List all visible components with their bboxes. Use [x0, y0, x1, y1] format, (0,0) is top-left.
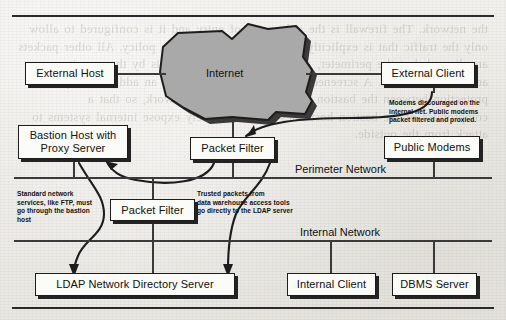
perimeter-network-line [14, 177, 492, 179]
arrowhead-packet-filter-top [246, 125, 256, 137]
note-trusted: Trusted packets from data warehouse acce… [197, 190, 309, 216]
drop-externalclient-to-publicmodems [433, 85, 435, 93]
box-public-modems[interactable]: Public Modems [384, 136, 480, 159]
arrowhead-bastion-host [105, 161, 118, 170]
drop-packetfilter-mid-lower [152, 220, 154, 240]
drop-publicmodems-to-perimeter [433, 159, 435, 178]
link-external-host-to-internet [114, 73, 166, 75]
box-dbms-server[interactable]: DBMS Server [392, 273, 477, 296]
diagram-vector-layer [0, 0, 506, 320]
internal-network-line [14, 240, 492, 242]
box-packet-filter-top-label: Packet Filter [201, 142, 263, 155]
box-public-modems-label: Public Modems [394, 141, 471, 154]
internet-cloud-label: Internet [206, 67, 243, 79]
internal-network-label: Internal Network [300, 226, 380, 238]
box-external-host-label: External Host [36, 67, 103, 80]
drop-bastion-to-perimeter [73, 159, 75, 178]
network-diagram: Internet Perimeter Network Internal Netw… [0, 0, 506, 320]
box-external-host[interactable]: External Host [25, 62, 115, 85]
box-packet-filter-mid-label: Packet Filter [121, 204, 183, 217]
note-bastion: Standard network services, like FTP, mus… [17, 190, 105, 224]
box-bastion-host[interactable]: Bastion Host with Proxy Server [18, 125, 128, 159]
box-packet-filter-top[interactable]: Packet Filter [190, 137, 275, 160]
note-modems: Modems discouraged on the internal net. … [389, 99, 494, 125]
trusted-packets-to-ldap-curve [228, 163, 270, 270]
box-internal-client[interactable]: Internal Client [287, 273, 376, 296]
drop-ldap-to-internal [152, 240, 154, 273]
drop-packetfilter-top-to-perimeter [232, 160, 234, 178]
perimeter-network-label: Perimeter Network [295, 163, 386, 175]
drop-packetfilter-mid-upper [152, 177, 154, 200]
box-bastion-host-label: Bastion Host with Proxy Server [30, 129, 117, 156]
drop-internet-to-packetfilter [232, 118, 234, 138]
box-packet-filter-mid[interactable]: Packet Filter [110, 199, 195, 221]
drop-dbms-to-internal [433, 240, 435, 273]
box-ldap-server-label: LDAP Network Directory Server [56, 278, 213, 291]
drop-internalclient-to-internal [330, 240, 332, 273]
box-external-client-label: External Client [391, 67, 464, 80]
link-internet-to-external-client [306, 73, 382, 75]
box-internal-client-label: Internal Client [297, 278, 366, 291]
box-dbms-server-label: DBMS Server [400, 278, 468, 291]
box-external-client[interactable]: External Client [381, 62, 475, 85]
box-ldap-server[interactable]: LDAP Network Directory Server [35, 273, 235, 296]
packet-filter-to-bastion-curve [108, 163, 214, 183]
